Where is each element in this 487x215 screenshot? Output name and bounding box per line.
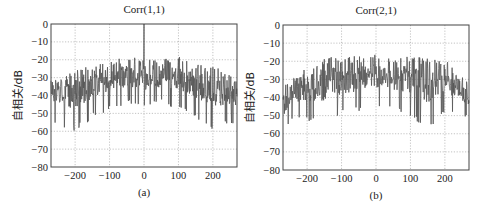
- y-tick-label: −20: [264, 56, 280, 67]
- subplot-a: Corr(1,1) 0−10−20−30−40−50−60−70−80 −200…: [11, 3, 237, 199]
- subplot-a-caption: (a): [138, 186, 151, 199]
- subplot-b-y-ticks: 0−10−20−30−40−50−60−70−80: [264, 20, 280, 176]
- y-tick-label: −80: [32, 162, 48, 173]
- x-tick-label: −100: [331, 173, 353, 184]
- subplot-a-y-ticks: 0−10−20−30−40−50−60−70−80: [32, 19, 48, 173]
- subplot-a-y-label: 自相关/dB: [11, 70, 25, 121]
- x-tick-label: −200: [296, 173, 318, 184]
- subplot-b-x-ticks: −200−1000100200: [296, 173, 452, 184]
- x-tick-label: 200: [437, 173, 453, 184]
- y-tick-label: −40: [264, 92, 280, 103]
- y-tick-label: −30: [32, 72, 48, 83]
- subplot-a-title: Corr(1,1): [123, 3, 165, 16]
- y-tick-label: −10: [264, 38, 280, 49]
- y-tick-label: −30: [264, 74, 280, 85]
- y-tick-label: −40: [32, 90, 48, 101]
- x-tick-label: −200: [64, 170, 86, 181]
- x-tick-label: 0: [373, 173, 378, 184]
- subplot-b: Corr(2,1) 0−10−20−30−40−50−60−70−80 −200…: [243, 4, 469, 202]
- subplot-b-title: Corr(2,1): [355, 4, 397, 17]
- y-tick-label: −70: [264, 146, 280, 157]
- y-tick-label: 0: [43, 19, 48, 30]
- y-tick-label: 0: [275, 20, 280, 31]
- y-tick-label: −80: [264, 165, 280, 176]
- y-tick-label: −20: [32, 54, 48, 65]
- y-tick-label: −60: [32, 126, 48, 137]
- y-tick-label: −50: [264, 110, 280, 121]
- x-tick-label: 100: [171, 170, 187, 181]
- y-tick-label: −50: [32, 108, 48, 119]
- subplot-b-y-label: 自相关/dB: [243, 72, 257, 123]
- figure: Corr(1,1) 0−10−20−30−40−50−60−70−80 −200…: [0, 0, 487, 215]
- y-tick-label: −70: [32, 144, 48, 155]
- x-tick-label: −100: [99, 170, 121, 181]
- y-tick-label: −60: [264, 128, 280, 139]
- x-tick-label: 0: [141, 170, 146, 181]
- x-tick-label: 200: [205, 170, 221, 181]
- y-tick-label: −10: [32, 36, 48, 47]
- subplot-a-x-ticks: −200−1000100200: [64, 170, 220, 181]
- x-tick-label: 100: [403, 173, 419, 184]
- subplot-b-caption: (b): [370, 189, 383, 202]
